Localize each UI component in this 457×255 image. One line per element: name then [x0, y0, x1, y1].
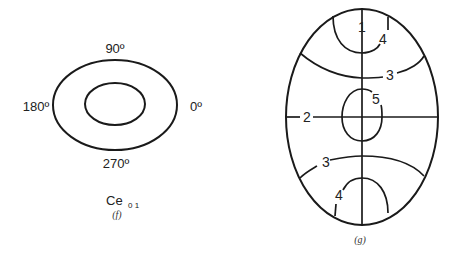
angle-label-270: 270º: [103, 156, 130, 171]
region-label-4-top: 4: [379, 31, 387, 47]
upper-arc-left: [300, 53, 383, 78]
mode-label: Ce: [106, 193, 123, 208]
region-label-4-bottom: 4: [335, 187, 343, 203]
angle-label-180: 180º: [23, 99, 50, 114]
lower-arc-right: [330, 156, 424, 176]
angle-label-0: 0º: [190, 99, 202, 114]
region-label-3-lower: 3: [322, 154, 330, 170]
region-label-2: 2: [303, 109, 311, 125]
angle-label-90: 90º: [105, 41, 124, 56]
diagram-canvas: 90º 180º 0º 270º Ce 0 1 (f) 1 4: [0, 0, 457, 255]
figure-f: 90º 180º 0º 270º Ce 0 1 (f): [23, 41, 202, 221]
mode-label-subscript: 0 1: [128, 201, 140, 210]
mode-label-main: Ce: [106, 193, 123, 208]
bottom-u-curve-left: [335, 204, 336, 216]
top-u-curve-left: [333, 16, 380, 53]
region-label-3-upper: 3: [386, 67, 394, 83]
outer-ellipse: [53, 60, 177, 150]
bottom-u-curve-right: [362, 178, 388, 213]
upper-arc-right: [397, 56, 424, 73]
lower-arc-left: [300, 166, 317, 178]
bottom-u-curve-top: [343, 178, 362, 190]
region-label-1: 1: [358, 19, 366, 35]
caption-f: (f): [112, 209, 122, 221]
figure-g: 1 4 3 5 2 3 4 (g): [286, 9, 438, 246]
inner-ellipse: [85, 83, 145, 125]
caption-g: (g): [354, 234, 366, 246]
region-label-5: 5: [372, 91, 380, 107]
